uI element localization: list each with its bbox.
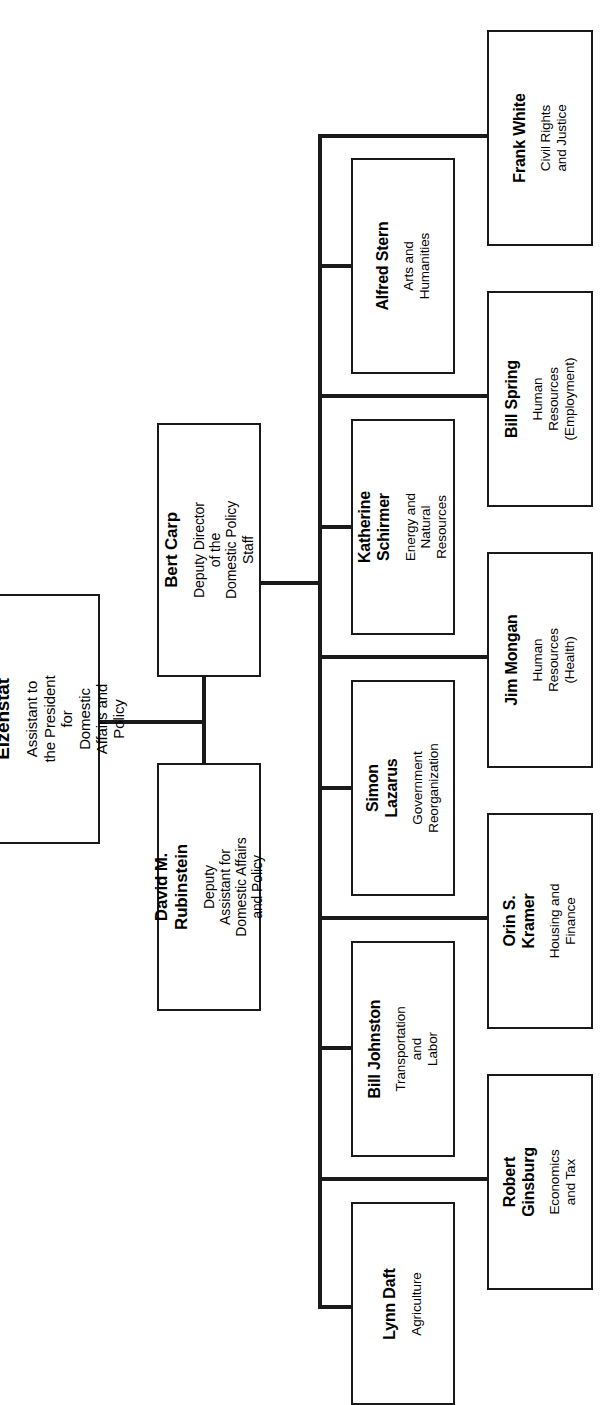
connector-trunk-to-katherine-schirmer: [318, 525, 354, 529]
node-stuart-eizenstat[interactable]: Stuart E. Eizenstat Assistant to the Pre…: [0, 594, 100, 844]
node-lynn-daft[interactable]: Lynn Daft Agriculture: [351, 1202, 455, 1405]
node-role: Agriculture: [409, 1272, 425, 1335]
node-name: Jim Mongan: [503, 614, 522, 705]
node-david-rubinstein[interactable]: David M. Rubinstein Deputy Assistant for…: [157, 763, 261, 1011]
node-name: Simon Lazarus: [364, 738, 401, 838]
node-name: Lynn Daft: [381, 1268, 400, 1339]
node-role: Deputy Assistant for Domestic Affairs an…: [201, 837, 266, 937]
node-simon-lazarus[interactable]: Simon Lazarus Government Reorganization: [351, 680, 455, 896]
node-jim-mongan[interactable]: Jim Mongan Human Resources (Health): [487, 552, 593, 768]
connector-trunk-to-simon-lazarus: [318, 786, 354, 790]
node-name: Bert Carp: [162, 512, 182, 588]
node-role: Housing and Finance: [547, 884, 578, 959]
node-name: Orin S. Kramer: [501, 870, 538, 972]
node-alfred-stern[interactable]: Alfred Stern Arts and Humanities: [351, 158, 455, 374]
node-role: Economics and Tax: [547, 1149, 578, 1214]
main-trunk: [318, 134, 322, 1309]
node-katherine-schirmer[interactable]: Katherine Schirmer Energy and Natural Re…: [351, 419, 455, 635]
connector-deputy-spine: [202, 677, 206, 765]
node-bill-spring[interactable]: Bill Spring Human Resources (Employment): [487, 291, 593, 507]
node-name: Bill Spring: [503, 360, 522, 438]
node-role: Government Reorganization: [410, 743, 441, 832]
node-role: Civil Rights and Justice: [538, 104, 569, 171]
node-name: Bill Johnston: [366, 1000, 385, 1099]
node-bill-johnston[interactable]: Bill Johnston Transportation and Labor: [351, 941, 455, 1157]
node-role: Human Resources (Employment): [530, 348, 577, 450]
node-role: Transportation and Labor: [393, 999, 440, 1099]
node-name: Alfred Stern: [374, 221, 393, 310]
node-bert-carp[interactable]: Bert Carp Deputy Director of the Domesti…: [157, 423, 261, 677]
connector-trunk-to-robert-ginsburg: [318, 1177, 489, 1181]
node-name: Stuart E. Eizenstat: [0, 670, 14, 768]
node-name: Katherine Schirmer: [356, 477, 393, 577]
connector-trunk-to-bill-johnston: [318, 1046, 354, 1050]
connector-trunk-to-lynn-daft: [318, 1305, 354, 1309]
connector-trunk-to-bill-spring: [318, 394, 489, 398]
node-role: Arts and Humanities: [401, 233, 432, 300]
node-name: Frank White: [511, 93, 530, 182]
node-name: Robert Ginsburg: [501, 1131, 538, 1233]
node-role: Human Resources (Health): [530, 609, 577, 711]
node-role: Deputy Director of the Domestic Policy S…: [191, 500, 256, 600]
connector-trunk-to-orin-kramer: [318, 916, 489, 920]
node-name: David M. Rubinstein: [152, 837, 191, 937]
connector-trunk-to-jim-mongan: [318, 655, 489, 659]
node-role: Assistant to the President for Domestic …: [23, 670, 127, 768]
connector-carp-to-trunk: [260, 581, 322, 585]
node-frank-white[interactable]: Frank White Civil Rights and Justice: [487, 30, 593, 246]
node-robert-ginsburg[interactable]: Robert Ginsburg Economics and Tax: [487, 1074, 593, 1290]
node-role: Energy and Natural Resources: [403, 477, 450, 577]
node-orin-kramer[interactable]: Orin S. Kramer Housing and Finance: [487, 813, 593, 1029]
connector-trunk-to-alfred-stern: [318, 264, 354, 268]
connector-trunk-to-frank-white: [318, 134, 489, 138]
